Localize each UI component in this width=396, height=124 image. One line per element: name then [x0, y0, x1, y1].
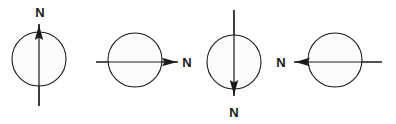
panel-north-up: N — [12, 5, 66, 106]
figure-canvas: N N N N — [0, 0, 396, 124]
panel-1-north-label: N — [35, 5, 44, 20]
panel-north-left: N — [276, 33, 382, 87]
body-circle — [308, 33, 362, 87]
north-orientation-diagram: N N N N — [0, 0, 396, 124]
panel-3-north-label: N — [229, 105, 238, 120]
body-circle — [108, 33, 162, 87]
panel-4-north-label: N — [276, 55, 285, 70]
panel-north-right: N — [96, 33, 192, 87]
panel-north-down: N — [207, 10, 261, 120]
panel-2-north-label: N — [182, 55, 191, 70]
